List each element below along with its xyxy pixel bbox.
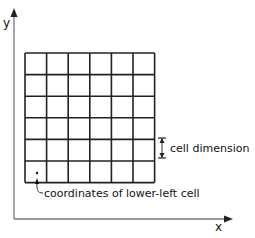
dimension-arrow-bottom-icon xyxy=(160,153,165,158)
y-axis-arrow-icon xyxy=(11,8,18,17)
cell-dimension-label: cell dimension xyxy=(170,142,249,155)
lower-left-annotation: coordinates of lower-left cell xyxy=(35,172,200,200)
lower-left-point-icon xyxy=(36,172,38,174)
y-axis: y xyxy=(3,8,18,219)
raster-grid-diagram: y x coordinates of lower-left cell cell … xyxy=(0,0,255,238)
x-axis-arrow-icon xyxy=(224,216,233,223)
dimension-arrow-top-icon xyxy=(160,138,165,143)
y-axis-label: y xyxy=(3,16,10,30)
x-axis-label: x xyxy=(215,220,222,234)
x-axis: x xyxy=(14,216,233,235)
cell-grid xyxy=(25,53,155,183)
lower-left-label: coordinates of lower-left cell xyxy=(44,187,200,200)
cell-dimension-annotation: cell dimension xyxy=(158,138,249,158)
up-arrow-icon xyxy=(35,178,39,184)
